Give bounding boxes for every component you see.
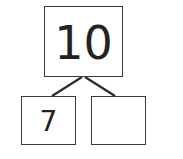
part-value-left: 7 bbox=[40, 108, 58, 136]
connector-left bbox=[52, 77, 82, 96]
whole-value: 10 bbox=[54, 20, 113, 66]
part-box-right-empty[interactable] bbox=[91, 96, 146, 145]
whole-box: 10 bbox=[44, 6, 123, 77]
part-box-left: 7 bbox=[21, 96, 76, 145]
connector-right bbox=[85, 77, 115, 96]
